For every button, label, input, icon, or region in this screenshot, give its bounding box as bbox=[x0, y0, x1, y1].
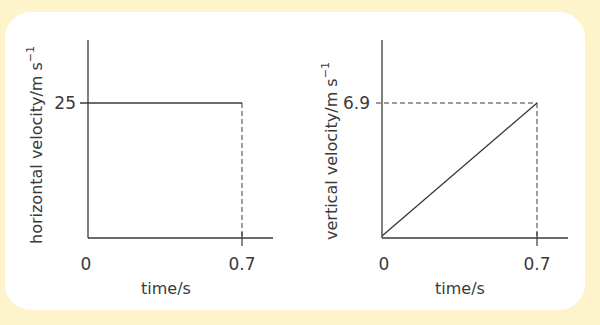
y-axis-label: vertical velocity/m s bbox=[322, 78, 341, 240]
x-tick-label-0-7: 0.7 bbox=[228, 254, 255, 274]
horizontal-velocity-chart: 25 0 0.7 time/s horizontal velocity/m s−… bbox=[24, 40, 273, 298]
velocity-time-graphs: 25 0 0.7 time/s horizontal velocity/m s−… bbox=[0, 0, 600, 325]
y-tick-label: 25 bbox=[54, 93, 76, 113]
velocity-line bbox=[382, 103, 537, 236]
y-axis-label-superscript: −1 bbox=[319, 62, 332, 78]
x-axis-label: time/s bbox=[141, 279, 191, 298]
svg-text:vertical velocity/m s−1: vertical velocity/m s−1 bbox=[319, 62, 341, 240]
x-axis-label: time/s bbox=[435, 279, 485, 298]
y-axis-label-superscript: −1 bbox=[24, 46, 37, 62]
y-tick-label: 6.9 bbox=[343, 93, 370, 113]
svg-text:horizontal velocity/m s−1: horizontal velocity/m s−1 bbox=[24, 46, 46, 244]
y-axis-label: horizontal velocity/m s bbox=[27, 62, 46, 244]
x-tick-label-0: 0 bbox=[379, 254, 390, 274]
vertical-velocity-chart: 6.9 0 0.7 time/s vertical velocity/m s−1 bbox=[319, 40, 568, 298]
x-tick-label-0: 0 bbox=[81, 254, 92, 274]
x-tick-label-0-7: 0.7 bbox=[523, 254, 550, 274]
